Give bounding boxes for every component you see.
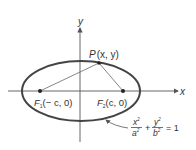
svg-text:+: + (145, 123, 150, 133)
x-axis-label: x (179, 86, 186, 97)
point-p-dot (97, 61, 101, 65)
svg-text:y2: y2 (153, 117, 161, 127)
focus-2-label: F2(c, 0) (97, 97, 127, 109)
focus-1-label: F1(− c, 0) (34, 97, 72, 109)
svg-text:b2: b2 (153, 128, 161, 138)
svg-text:= 1: = 1 (166, 123, 179, 133)
ellipse-equation: x2 a2 + y2 b2 = 1 (131, 117, 179, 138)
svg-text:a2: a2 (132, 128, 140, 138)
y-axis-label: y (77, 16, 84, 27)
focus-1-dot (38, 89, 42, 93)
focus-2-dot (121, 89, 125, 93)
segment-f1-p (40, 63, 99, 91)
equation-pointer-arrow (106, 120, 128, 128)
point-p-label: P(x, y) (89, 49, 119, 60)
svg-text:x2: x2 (132, 117, 140, 127)
ellipse-diagram: y x P(x, y) F1(− c, 0) F2(c, 0) x2 a2 + … (0, 0, 196, 150)
